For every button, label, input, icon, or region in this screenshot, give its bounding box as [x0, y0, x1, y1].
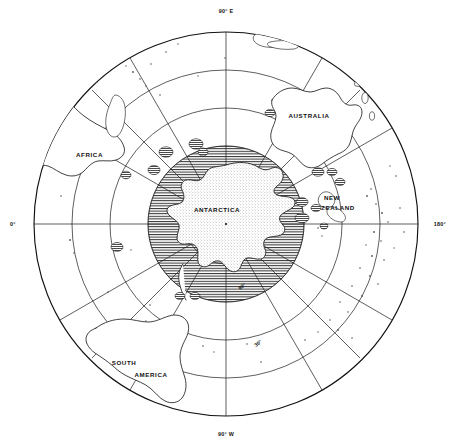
marker-island — [335, 178, 345, 185]
marker-island — [189, 139, 203, 149]
label-new: NEW — [324, 194, 340, 201]
map-canvas: AFRICA AUSTRALIA NEW ZEALAND ANTARCTICA … — [0, 0, 453, 446]
label-zealand: ZEALAND — [321, 204, 355, 211]
label-meridian-90-east: 90° E — [219, 8, 234, 14]
marker-island — [198, 148, 208, 156]
label-america: AMERICA — [134, 371, 167, 378]
marker-island — [295, 213, 309, 223]
marker-island — [159, 147, 173, 157]
antarctic-polar-map: AFRICA AUSTRALIA NEW ZEALAND ANTARCTICA … — [0, 0, 453, 446]
marker-island — [121, 171, 131, 179]
marker-island — [175, 292, 185, 299]
label-meridian-0: 0° — [10, 221, 16, 227]
marker-island — [311, 204, 321, 211]
label-meridian-180: 180° — [434, 221, 446, 227]
label-meridian-90-west: 90° W — [218, 431, 235, 437]
marker-island — [320, 223, 328, 229]
marker-island — [312, 168, 324, 176]
label-south: SOUTH — [112, 359, 137, 366]
marker-island — [327, 168, 337, 175]
south-pole-marker — [225, 223, 227, 225]
marker-island — [190, 292, 200, 299]
label-australia: AUSTRALIA — [288, 112, 329, 119]
marker-island — [148, 165, 160, 174]
marker-island — [111, 243, 123, 252]
marker-island — [296, 198, 308, 207]
label-africa: AFRICA — [76, 151, 103, 158]
label-antarctica: ANTARCTICA — [194, 206, 240, 213]
marker-island — [265, 109, 275, 116]
